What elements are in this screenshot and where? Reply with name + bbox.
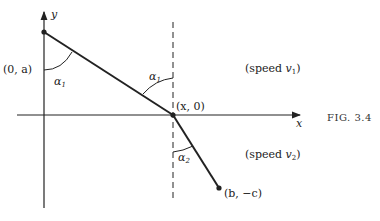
- label-alpha1-right: α1: [149, 70, 161, 84]
- angle-arc-alpha1-top: [44, 52, 72, 70]
- label-alpha1-top: α1: [54, 75, 66, 89]
- y-axis-label: y: [50, 8, 58, 21]
- label-alpha2: α2: [178, 151, 190, 165]
- x-axis-label: x: [296, 117, 303, 130]
- label-speed-v1: (speed v1): [245, 62, 301, 76]
- refraction-diagram: y x (0, a) (x, 0) (b, −c) α1 α1 α2 (spee…: [0, 0, 380, 221]
- label-speed-v2: (speed v2): [245, 148, 301, 162]
- label-interface-point: (x, 0): [176, 100, 205, 113]
- label-start-point: (0, a): [3, 63, 32, 76]
- point-end: [216, 185, 221, 190]
- point-interface: [170, 112, 175, 117]
- figure-caption: FIG. 3.4: [327, 112, 372, 123]
- point-start: [41, 29, 46, 34]
- label-end-point: (b, −c): [224, 187, 262, 200]
